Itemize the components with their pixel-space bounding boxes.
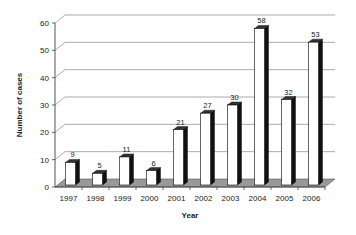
x-tick-label: 1997 (60, 194, 78, 203)
y-tick-label: 10 (40, 156, 49, 165)
data-label: 27 (203, 101, 211, 110)
data-label: 6 (151, 159, 155, 168)
y-tick-labels: 0102030405060 (40, 19, 49, 192)
bars: 95116212730583253 (66, 16, 323, 185)
x-tick-label: 2001 (168, 194, 186, 203)
x-tick-label: 1999 (114, 194, 132, 203)
x-tick-label: 2006 (303, 194, 321, 203)
bar: 32 (282, 88, 296, 185)
y-tick-label: 40 (40, 74, 49, 83)
y-tick-label: 20 (40, 128, 49, 137)
data-label: 32 (284, 88, 292, 97)
bar: 53 (309, 30, 323, 185)
bar: 30 (228, 93, 242, 185)
data-label: 11 (123, 145, 131, 154)
bar: 11 (120, 145, 134, 185)
data-label: 58 (257, 16, 265, 25)
data-label: 9 (70, 150, 74, 159)
bar-chart: 95116212730583253 0102030405060 19971998… (0, 0, 356, 235)
y-tick-label: 30 (40, 101, 49, 110)
x-tick-label: 1998 (87, 194, 105, 203)
bar: 58 (255, 16, 269, 185)
gridline (55, 42, 335, 50)
bar: 9 (66, 150, 80, 185)
data-label: 21 (176, 118, 184, 127)
x-tick-label: 2003 (222, 194, 240, 203)
y-tick-label: 0 (45, 183, 50, 192)
x-tick-label: 2002 (195, 194, 213, 203)
gridline (55, 15, 335, 23)
x-tick-label: 2004 (249, 194, 267, 203)
x-tick-label: 2005 (276, 194, 294, 203)
data-label: 5 (97, 161, 101, 170)
y-axis-label: Number of cases (15, 72, 24, 137)
y-tick-label: 50 (40, 46, 49, 55)
x-axis-label: Year (182, 211, 199, 220)
bar: 21 (174, 118, 188, 185)
data-label: 30 (230, 93, 238, 102)
data-label: 53 (311, 30, 319, 39)
gridline (55, 70, 335, 78)
bar: 27 (201, 101, 215, 185)
bar: 5 (93, 161, 107, 185)
x-tick-label: 2000 (141, 194, 159, 203)
x-tick-labels: 1997199819992000200120022003200420052006 (60, 194, 321, 203)
bar: 6 (147, 159, 161, 185)
y-tick-label: 60 (40, 19, 49, 28)
